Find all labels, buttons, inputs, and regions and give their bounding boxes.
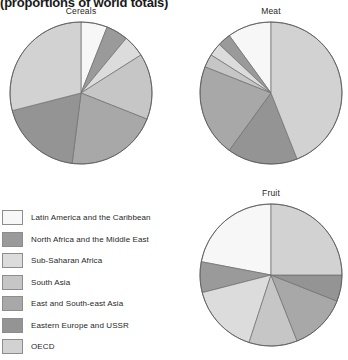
legend-label: North Africa and the Middle East [31,235,149,244]
legend-item: East and South-east Asia [2,293,182,315]
pie-slice [271,204,342,275]
legend-label: Sub-Saharan Africa [31,256,102,265]
legend-item: Sub-Saharan Africa [2,250,182,272]
legend-swatch [2,296,23,311]
pie-panel-cereals: Cereals [6,6,156,168]
legend-swatch [2,253,23,268]
legend-item: South Asia [2,272,182,294]
legend-label: OECD [31,342,55,351]
legend-swatch [2,339,23,354]
pie-panel-meat: Meat [196,6,346,168]
pie-title-fruit: Fruit [196,188,346,198]
pie-chart-meat [196,18,346,168]
legend-label: Eastern Europe and USSR [31,321,129,330]
pie-title-cereals: Cereals [6,6,156,16]
legend: Latin America and the Caribbean North Af… [2,207,182,358]
legend-item: Eastern Europe and USSR [2,315,182,337]
pie-chart-fruit [196,200,346,350]
legend-item: Latin America and the Caribbean [2,207,182,229]
legend-swatch [2,232,23,247]
legend-label: Latin America and the Caribbean [31,213,151,222]
legend-label: East and South-east Asia [31,299,123,308]
legend-label: South Asia [31,278,70,287]
legend-item: OECD [2,336,182,358]
pie-chart-cereals [6,18,156,168]
pie-title-meat: Meat [196,6,346,16]
legend-swatch [2,318,23,333]
pie-panel-fruit: Fruit [196,188,346,350]
legend-swatch [2,275,23,290]
legend-swatch [2,210,23,225]
legend-item: North Africa and the Middle East [2,229,182,251]
